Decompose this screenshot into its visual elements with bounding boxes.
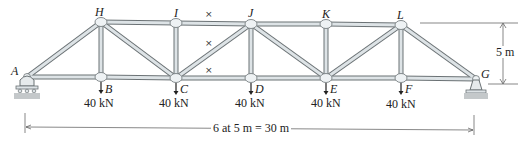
load-arrow-f xyxy=(399,91,404,95)
pin-support-g xyxy=(464,80,488,99)
joint-label-f: F xyxy=(405,83,412,95)
load-arrow-c xyxy=(174,91,179,95)
joint-label-a: A xyxy=(11,65,18,77)
load-arrows xyxy=(99,82,404,95)
span-dimension-label: 6 at 5 m = 30 m xyxy=(211,122,291,134)
cut-mark-diagonal: × xyxy=(205,39,213,48)
joint-label-j: J xyxy=(248,7,253,19)
joint-label-l: L xyxy=(397,9,404,21)
joint-label-i: I xyxy=(174,7,178,19)
truss-members xyxy=(27,22,476,79)
load-arrow-d xyxy=(249,91,254,95)
load-label-f: 40 kN xyxy=(386,98,416,110)
cut-mark-top: × xyxy=(205,10,213,19)
load-label-e: 40 kN xyxy=(311,97,341,109)
height-dimension-label: 5 m xyxy=(494,46,516,58)
joint-label-b: B xyxy=(105,83,112,95)
cut-mark-bottom: × xyxy=(205,66,213,75)
joint-b xyxy=(95,73,107,82)
load-label-c: 40 kN xyxy=(159,97,189,109)
load-arrow-e xyxy=(324,91,329,95)
joint-label-c: C xyxy=(180,83,188,95)
joint-j xyxy=(245,20,257,29)
load-arrow-b xyxy=(99,90,104,94)
load-label-b: 40 kN xyxy=(84,97,114,109)
joint-label-h: H xyxy=(95,6,104,18)
joint-label-g: G xyxy=(481,68,490,80)
joint-label-d: D xyxy=(255,83,264,95)
joint-label-k: K xyxy=(322,8,330,20)
joint-label-e: E xyxy=(330,83,337,95)
load-label-d: 40 kN xyxy=(235,97,265,109)
